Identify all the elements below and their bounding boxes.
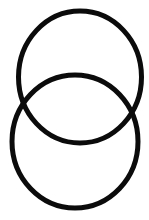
- figure-canvas: [0, 0, 149, 220]
- overlapping-rings-graphic: [0, 0, 149, 220]
